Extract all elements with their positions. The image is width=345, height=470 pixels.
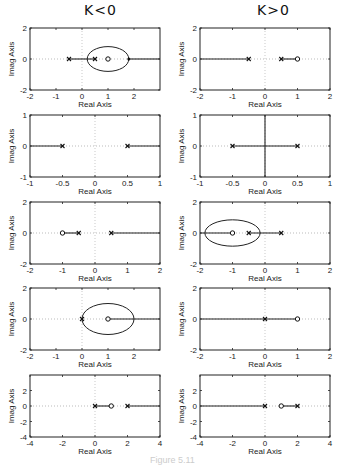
svg-text:2: 2	[23, 24, 28, 33]
svg-text:-1: -1	[52, 92, 60, 101]
svg-text:0: 0	[193, 229, 198, 238]
svg-text:Imag Axis: Imag Axis	[177, 42, 186, 77]
heading-k-negative: K<0	[84, 2, 117, 18]
svg-text:Imag Axis: Imag Axis	[7, 302, 16, 337]
svg-text:Imag Axis: Imag Axis	[7, 129, 16, 164]
zero-marker-icon	[230, 231, 234, 235]
svg-text:1: 1	[193, 111, 198, 120]
root-locus-plot-r2: -1-0.500.51-101Real AxisImag Axis	[200, 115, 330, 177]
svg-text:Imag Axis: Imag Axis	[177, 129, 186, 164]
svg-text:1: 1	[328, 179, 333, 188]
svg-text:-2: -2	[26, 352, 34, 361]
svg-text:2: 2	[193, 387, 198, 396]
zero-marker-icon	[295, 317, 299, 321]
root-locus-plot-r3: -2-1012-202Real AxisImag Axis	[200, 202, 330, 264]
svg-text:-2: -2	[26, 92, 34, 101]
svg-text:-2: -2	[229, 439, 237, 448]
svg-text:Imag Axis: Imag Axis	[177, 216, 186, 251]
svg-text:1: 1	[295, 266, 300, 275]
svg-text:2: 2	[328, 92, 333, 101]
svg-text:Real Axis: Real Axis	[78, 447, 111, 456]
svg-text:-1: -1	[20, 173, 28, 182]
svg-text:1: 1	[23, 111, 28, 120]
svg-text:0.5: 0.5	[292, 179, 304, 188]
svg-text:0: 0	[193, 402, 198, 411]
svg-text:-4: -4	[26, 439, 34, 448]
heading-k-positive: K>0	[257, 2, 290, 18]
svg-text:0: 0	[193, 55, 198, 64]
svg-text:Real Axis: Real Axis	[248, 447, 281, 456]
svg-text:-2: -2	[59, 439, 67, 448]
root-locus-plot-l2: -1-0.500.51-101Real AxisImag Axis	[30, 115, 160, 177]
svg-text:0: 0	[193, 315, 198, 324]
svg-text:0: 0	[23, 315, 28, 324]
zero-marker-icon	[295, 57, 299, 61]
svg-text:0.5: 0.5	[122, 179, 134, 188]
svg-text:2: 2	[328, 352, 333, 361]
svg-text:Real Axis: Real Axis	[78, 360, 111, 369]
svg-text:-4: -4	[20, 433, 28, 442]
svg-text:-1: -1	[190, 173, 198, 182]
svg-text:Real Axis: Real Axis	[248, 100, 281, 109]
root-locus-plot-r1: -2-1012-202Real AxisImag Axis	[200, 28, 330, 90]
svg-text:-2: -2	[20, 260, 28, 269]
svg-text:-2: -2	[190, 418, 198, 427]
svg-text:Real Axis: Real Axis	[78, 274, 111, 283]
svg-text:0: 0	[23, 55, 28, 64]
svg-text:2: 2	[328, 266, 333, 275]
svg-text:-4: -4	[196, 439, 204, 448]
svg-text:-1: -1	[196, 179, 204, 188]
svg-text:Real Axis: Real Axis	[78, 100, 111, 109]
svg-text:Imag Axis: Imag Axis	[7, 216, 16, 251]
svg-text:-2: -2	[20, 418, 28, 427]
root-locus-plot-r5: -4-2024-4-202Real AxisImag Axis	[200, 375, 330, 437]
root-locus-plot-l3: -2-1012-202Real AxisImag Axis	[30, 202, 160, 264]
svg-text:Real Axis: Real Axis	[78, 187, 111, 196]
svg-text:-0.5: -0.5	[226, 179, 240, 188]
svg-text:-1: -1	[59, 266, 67, 275]
svg-text:1: 1	[125, 266, 130, 275]
root-locus-plot-l1: -2-1012-202Real AxisImag Axis	[30, 28, 160, 90]
figure-caption: Figure 5.11	[150, 455, 195, 465]
svg-text:2: 2	[23, 284, 28, 293]
svg-text:1: 1	[158, 179, 163, 188]
svg-text:-2: -2	[20, 86, 28, 95]
svg-text:-2: -2	[196, 352, 204, 361]
svg-text:-2: -2	[196, 92, 204, 101]
svg-text:-1: -1	[229, 266, 237, 275]
zero-marker-icon	[60, 231, 64, 235]
svg-text:0: 0	[23, 229, 28, 238]
svg-text:0: 0	[23, 142, 28, 151]
svg-text:2: 2	[23, 198, 28, 207]
root-locus-plot-r4: -2-1012-202Real AxisImag Axis	[200, 288, 330, 350]
svg-text:-1: -1	[52, 352, 60, 361]
root-locus-plot-l4: -2-1012-202Real AxisImag Axis	[30, 288, 160, 350]
svg-text:2: 2	[158, 266, 163, 275]
zero-marker-icon	[279, 404, 283, 408]
svg-text:-1: -1	[26, 179, 34, 188]
root-locus-plot-l5: -4-2024-4-202Real AxisImag Axis	[30, 375, 160, 437]
svg-text:Real Axis: Real Axis	[248, 187, 281, 196]
svg-text:2: 2	[23, 387, 28, 396]
svg-text:-2: -2	[26, 266, 34, 275]
svg-text:2: 2	[193, 198, 198, 207]
zero-marker-icon	[106, 57, 110, 61]
svg-text:0: 0	[193, 142, 198, 151]
svg-text:1: 1	[295, 352, 300, 361]
zero-marker-icon	[106, 317, 110, 321]
svg-text:-0.5: -0.5	[56, 179, 70, 188]
svg-text:2: 2	[295, 439, 300, 448]
svg-text:-2: -2	[190, 346, 198, 355]
svg-text:2: 2	[193, 24, 198, 33]
svg-text:Imag Axis: Imag Axis	[177, 389, 186, 424]
svg-text:-2: -2	[190, 86, 198, 95]
svg-text:4: 4	[158, 439, 163, 448]
svg-text:Real Axis: Real Axis	[248, 360, 281, 369]
svg-text:2: 2	[132, 352, 137, 361]
svg-text:-4: -4	[190, 433, 198, 442]
svg-text:-2: -2	[20, 346, 28, 355]
svg-text:Imag Axis: Imag Axis	[7, 389, 16, 424]
svg-text:2: 2	[193, 284, 198, 293]
svg-text:-2: -2	[196, 266, 204, 275]
svg-text:2: 2	[125, 439, 130, 448]
